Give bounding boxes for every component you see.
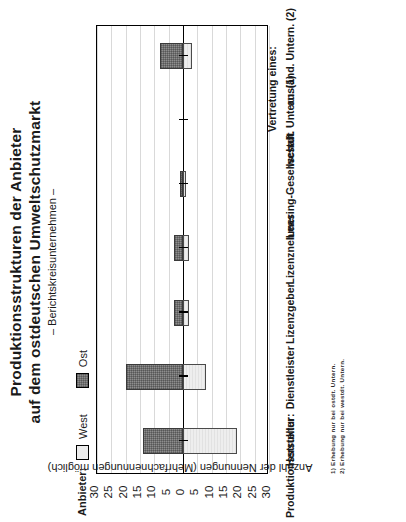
- category-label-1: Dienstleister: [284, 346, 296, 409]
- category-tick: [179, 376, 188, 377]
- bar-west-6: [183, 43, 192, 69]
- footnote-2: 2) Erhebung nur bei westdt. Untern.: [337, 359, 346, 474]
- title-line-2: auf dem ostdeutschen Umweltschutzmarkt: [25, 12, 44, 512]
- axis-tick-labels: 30252015105051015202530: [96, 474, 268, 522]
- gridline: [255, 26, 256, 473]
- category-label-2: Lizenzgeber: [284, 283, 296, 344]
- bar-ost-0: [143, 428, 183, 454]
- axis-tick-label: 15: [217, 486, 229, 499]
- axis-tick-label: 15: [131, 486, 143, 499]
- title-line-1: Produktionsstrukturen der Anbieter: [6, 12, 25, 512]
- bar-ost-3: [174, 236, 183, 262]
- bar-ost-2: [174, 300, 183, 326]
- gridline: [140, 26, 141, 473]
- category-tick: [179, 55, 188, 56]
- category-tick: [179, 440, 188, 441]
- gridline: [126, 26, 127, 473]
- gridline: [111, 26, 112, 473]
- bar-west-1: [183, 364, 206, 390]
- gridline: [226, 26, 227, 473]
- legend-heading: Anbieter:: [76, 468, 88, 516]
- axis-tick-label: 10: [203, 486, 215, 499]
- axis-tick-label: 30: [260, 486, 272, 499]
- axis-tick-label: 20: [231, 486, 243, 499]
- category-group-label: Vertretung eines:: [266, 46, 278, 132]
- axis-tick-label: 5: [160, 489, 172, 495]
- axis-tick-label: 25: [102, 486, 114, 499]
- category-labels: HerstellerDienstleisterLizenzgeberLizenz…: [276, 25, 366, 474]
- bar-west-3: [183, 236, 189, 262]
- gridline: [97, 26, 98, 473]
- footnote-1: 1) Erhebung nur bei ostdt. Untern.: [328, 359, 337, 474]
- legend-item-ost: Ost: [76, 350, 89, 388]
- page-title: Produktionsstrukturen der Anbieter auf d…: [6, 12, 60, 512]
- bar-west-0: [183, 428, 237, 454]
- bar-west-2: [183, 300, 189, 326]
- category-tick: [179, 183, 188, 184]
- category-label-0: Hersteller: [284, 418, 296, 466]
- gridline: [169, 26, 170, 473]
- bar-ost-1: [126, 364, 183, 390]
- category-tick: [179, 247, 188, 248]
- legend-swatch-ost-icon: [76, 373, 89, 388]
- gridline: [212, 26, 213, 473]
- plot-area: [96, 25, 268, 474]
- title-subtitle: – Berichtskreisunternehmen –: [44, 12, 60, 512]
- category-label-6: ausländ. Untern. (2): [284, 8, 296, 106]
- bar-ost-6: [160, 43, 183, 69]
- gridline: [197, 26, 198, 473]
- footnotes: 1) Erhebung nur bei ostdt. Untern. 2) Er…: [328, 359, 346, 474]
- axis-tick-label: 10: [145, 486, 157, 499]
- chart-figure: Produktionsstrukturen der Anbieter auf d…: [0, 0, 406, 522]
- legend-swatch-west-icon: [76, 445, 89, 460]
- category-tick: [179, 119, 188, 120]
- bar-west-4: [183, 171, 186, 197]
- gridline: [240, 26, 241, 473]
- legend-item-west: West: [76, 414, 89, 460]
- axis-tick-label: 5: [188, 489, 200, 495]
- chart-legend: West Ost: [76, 350, 89, 460]
- axis-tick-label: 25: [246, 486, 258, 499]
- category-tick: [179, 311, 188, 312]
- axis-tick-label: 30: [88, 486, 100, 499]
- legend-label-west: West: [77, 414, 89, 439]
- axis-tick-label: 20: [117, 486, 129, 499]
- axis-tick-label: 0: [174, 489, 186, 495]
- gridline: [154, 26, 155, 473]
- legend-label-ost: Ost: [77, 350, 89, 367]
